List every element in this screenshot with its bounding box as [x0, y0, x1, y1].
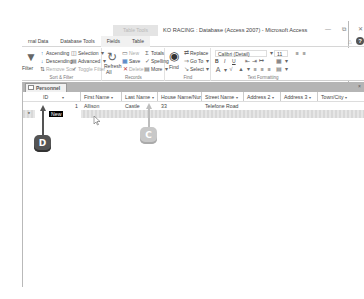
bold-button[interactable]: B [215, 58, 219, 64]
paragraph-direction-icon: ↦ [258, 58, 264, 64]
advanced-button[interactable]: ▤Advanced▾ [71, 58, 107, 64]
access-window: Table Tools KO RACING : Database (Access… [22, 21, 349, 287]
group-label-find: Find [166, 75, 210, 80]
group-records: ↻ Refresh All ▭New ▦Save ✕Delete ΣTotals… [103, 48, 165, 81]
select-button[interactable]: ↘Select▾ [183, 66, 211, 72]
tab-database-tools[interactable]: Database Tools [54, 36, 100, 47]
group-sort-filter: ▼ Filter ↑Ascending ↓Descending ⇅Remove … [22, 48, 102, 81]
indent-buttons[interactable]: ⇤⇥↦ [244, 58, 264, 64]
close-button[interactable]: ✕ [356, 25, 364, 33]
column-header-first-name[interactable]: First Name▾ [81, 92, 122, 101]
toggle-filter-icon: ✓ [71, 66, 77, 72]
restore-button[interactable]: ⧉ [340, 25, 348, 33]
font-color-icon: A [215, 66, 221, 73]
group-text-formatting: Calibri (Detail) ▾ 11 ≡≡ B I U ⇤⇥↦ ▦▾ A▾… [212, 48, 364, 81]
minimize-ribbon-icon[interactable]: △ [348, 38, 352, 44]
help-icon[interactable]: ? [356, 37, 364, 45]
save-record-button[interactable]: ▦Save [122, 58, 140, 64]
font-size-select[interactable]: 11 [274, 50, 288, 57]
advanced-filter-icon: ▤ [71, 58, 77, 64]
cell-last-name[interactable]: Castle [122, 102, 158, 110]
column-dropdown-icon[interactable]: ▾ [345, 95, 347, 100]
save-icon: ▦ [122, 58, 128, 64]
cell-street-name[interactable]: Telefone Road [202, 102, 244, 110]
window-title: KO RACING : Database (Access 2007) - Mic… [163, 27, 307, 33]
align-buttons[interactable]: ≡≡≡ [252, 66, 272, 72]
column-dropdown-icon[interactable]: ▾ [62, 95, 64, 100]
toggle-filter-button[interactable]: ✓Toggle Filter [71, 66, 105, 72]
new-record-marker[interactable]: * [23, 110, 35, 118]
callout-c-line [148, 109, 150, 129]
document-area: Personnel × ID▾ First Name▾ Last Name▾ H… [22, 82, 364, 287]
cell-address-3[interactable] [281, 102, 318, 110]
datasheet-header: ID▾ First Name▾ Last Name▾ House Name/Nu… [23, 92, 364, 102]
document-tab-personnel[interactable]: Personnel [25, 83, 67, 92]
find-button[interactable]: Find [169, 64, 179, 70]
column-dropdown-icon[interactable]: ▾ [111, 95, 113, 100]
cell-address-2[interactable] [244, 102, 281, 110]
more-icon: ▤ [144, 66, 150, 72]
column-header-id[interactable]: ID▾ [35, 92, 81, 101]
new-record-icon: ▭ [122, 50, 128, 56]
callout-d-badge: D [34, 135, 51, 152]
column-header-street-name[interactable]: Street Name▾ [202, 92, 244, 101]
new-record-row[interactable]: * New [23, 110, 364, 118]
close-document-icon[interactable]: × [358, 83, 361, 89]
cell-house-name[interactable]: 33 [158, 102, 202, 110]
table-tools-context-header: Table Tools [113, 25, 158, 36]
table-icon [28, 85, 34, 90]
fill-color-icon: ▲ [238, 66, 244, 72]
cell-town-city[interactable] [318, 102, 364, 110]
callout-d-line [42, 109, 44, 137]
new-autonumber-label: New [49, 111, 63, 117]
column-dropdown-icon[interactable]: ▾ [272, 95, 274, 100]
sort-descending-icon: ↓ [39, 58, 45, 64]
filter-button[interactable]: Filter [22, 65, 33, 71]
underline-button[interactable]: U [232, 58, 236, 64]
row-selector[interactable] [23, 102, 35, 110]
select-all-box[interactable] [23, 92, 35, 101]
callout-c-arrow-icon [146, 103, 152, 109]
font-color-button[interactable]: A▾ [215, 66, 228, 73]
background-color-button[interactable]: ▲▾ [238, 66, 251, 72]
cell-first-name[interactable]: Allison [81, 102, 122, 110]
minimize-button[interactable]: — [324, 25, 332, 33]
column-dropdown-icon[interactable]: ▾ [309, 95, 311, 100]
callout-d-arrow-icon [40, 105, 46, 111]
replace-icon: ⇄ [183, 50, 189, 56]
table-row[interactable]: 1 Allison Castle 33 Telefone Road [23, 102, 364, 110]
mouse-cursor-icon [93, 116, 101, 126]
italic-button[interactable]: I [224, 58, 225, 64]
gridlines-button[interactable]: ▦▾ [276, 58, 289, 64]
tab-external-data[interactable]: rnal Data [22, 36, 54, 47]
font-name-select[interactable]: Calibri (Detail) [215, 50, 267, 57]
column-header-house-name[interactable]: House Name/Nur▾ [158, 92, 202, 101]
selection-filter-icon: ◫ [71, 50, 77, 56]
replace-button[interactable]: ⇄Replace [183, 50, 208, 56]
delete-record-button[interactable]: ✕Delete [122, 66, 143, 72]
increase-indent-icon: ⇥ [251, 58, 257, 64]
column-header-last-name[interactable]: Last Name▾ [122, 92, 158, 101]
tab-fields[interactable]: Fields [101, 36, 126, 47]
column-dropdown-icon[interactable]: ▾ [152, 95, 154, 100]
group-label-text-formatting: Text Formatting [212, 75, 314, 80]
highlight-button[interactable]: √ [228, 66, 234, 72]
list-buttons[interactable]: ≡≡ [294, 50, 307, 56]
chevron-down-icon: ▾ [283, 66, 289, 72]
totals-button[interactable]: ΣTotals [144, 50, 164, 56]
new-record-button[interactable]: ▭New [122, 50, 139, 56]
help-area: △ ? [348, 37, 364, 45]
column-header-town-city[interactable]: Town/City▾ [318, 92, 364, 101]
remove-sort-button[interactable]: ⇅Remove Sort [39, 66, 75, 72]
ascending-button[interactable]: ↑Ascending [39, 50, 69, 56]
chevron-down-icon: ▾ [204, 58, 210, 64]
tab-table[interactable]: Table [126, 36, 150, 47]
alt-row-color-button[interactable]: ▤▾ [276, 66, 289, 72]
column-header-address-2[interactable]: Address 2▾ [244, 92, 281, 101]
column-dropdown-icon[interactable]: ▾ [236, 95, 238, 100]
selection-button[interactable]: ◫Selection▾ [71, 50, 106, 56]
column-header-address-3[interactable]: Address 3▾ [281, 92, 318, 101]
descending-button[interactable]: ↓Descending [39, 58, 72, 64]
go-to-button[interactable]: ⇒Go To▾ [183, 58, 210, 64]
align-center-icon: ≡ [259, 66, 265, 72]
